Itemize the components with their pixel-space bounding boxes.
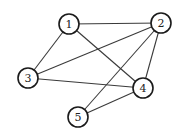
node-label: 1 (66, 18, 73, 31)
node-label: 5 (75, 111, 82, 124)
node-1: 1 (59, 14, 79, 34)
node-5: 5 (68, 107, 88, 127)
node-label: 3 (25, 72, 32, 85)
node-4: 4 (133, 78, 153, 98)
node-2: 2 (151, 13, 171, 33)
edge-1-2 (69, 23, 161, 24)
graph-diagram: 12345 (0, 0, 182, 140)
node-label: 2 (158, 17, 165, 30)
edge-2-3 (28, 23, 161, 78)
edges-layer (28, 23, 161, 117)
node-3: 3 (18, 68, 38, 88)
node-label: 4 (140, 82, 147, 95)
edge-3-4 (28, 78, 143, 88)
